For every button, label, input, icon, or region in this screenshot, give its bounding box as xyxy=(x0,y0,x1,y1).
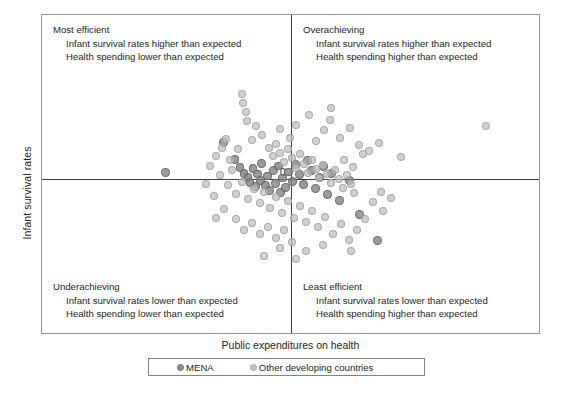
y-axis-label: Infant survival rates xyxy=(19,78,35,308)
scatter-point-other xyxy=(202,180,210,188)
scatter-point-other xyxy=(329,230,337,238)
legend-item-other-developing-countries[interactable]: Other developing countries xyxy=(250,362,374,373)
scatter-point-other xyxy=(319,241,327,249)
quadrant-title: Underachieving xyxy=(53,280,238,294)
scatter-point-other xyxy=(347,247,355,255)
quadrant-annotation-overachieving: Overachieving Infant survival rates high… xyxy=(303,23,491,64)
scatter-point-other xyxy=(379,207,387,215)
quadrant-annotation-most-efficient: Most efficient Infant survival rates hig… xyxy=(53,23,241,64)
scatter-point-other xyxy=(260,252,268,260)
quadrant-line-2: Health spending higher than expected xyxy=(316,307,488,321)
scatter-point-other xyxy=(212,214,220,222)
scatter-point-mena xyxy=(373,236,382,245)
scatter-point-other xyxy=(256,230,264,238)
scatter-chart-figure: Infant survival rates 0 Most efficient I… xyxy=(0,0,570,393)
scatter-point-other xyxy=(238,178,246,186)
quadrant-line-2: Health spending higher than expected xyxy=(316,50,491,64)
scatter-point-other xyxy=(248,136,256,144)
scatter-point-other xyxy=(260,188,268,196)
scatter-point-other xyxy=(238,90,246,98)
scatter-point-other xyxy=(369,198,377,206)
quadrant-line-1: Infant survival rates lower than expecte… xyxy=(316,294,488,308)
scatter-point-other xyxy=(387,194,395,202)
chart-legend: MENA Other developing countries xyxy=(148,358,425,376)
scatter-point-other xyxy=(234,145,242,153)
scatter-point-other xyxy=(305,111,313,119)
scatter-point-other xyxy=(355,141,363,149)
scatter-point-other xyxy=(224,181,232,189)
x-axis-label: Public expenditures on health xyxy=(41,339,540,351)
scatter-point-other xyxy=(252,122,260,130)
scatter-point-other xyxy=(335,175,343,183)
legend-label-mena: MENA xyxy=(186,362,214,373)
scatter-point-other xyxy=(240,226,248,234)
quadrant-line-1: Infant survival rates higher than expect… xyxy=(316,37,491,51)
scatter-point-other xyxy=(244,195,252,203)
scatter-point-other xyxy=(218,144,226,152)
scatter-point-other xyxy=(361,215,369,223)
scatter-point-other xyxy=(346,124,354,132)
scatter-point-other xyxy=(272,193,280,201)
scatter-point-other xyxy=(347,180,355,188)
scatter-point-other xyxy=(248,219,256,227)
scatter-point-other xyxy=(327,104,335,112)
scatter-point-other xyxy=(258,131,266,139)
quadrant-line-1: Infant survival rates higher than expect… xyxy=(66,37,241,51)
quadrant-annotation-least-efficient: Least efficient Infant survival rates lo… xyxy=(303,280,488,321)
scatter-point-other xyxy=(226,156,234,164)
quadrant-line-1: Infant survival rates lower than expecte… xyxy=(66,294,238,308)
scatter-point-other xyxy=(337,220,345,228)
scatter-point-mena xyxy=(311,184,320,193)
scatter-point-other xyxy=(272,140,280,148)
scatter-point-other xyxy=(228,166,236,174)
scatter-point-other xyxy=(210,192,218,200)
scatter-point-other xyxy=(242,108,250,116)
scatter-point-other xyxy=(397,153,405,161)
scatter-point-other xyxy=(304,169,312,177)
scatter-point-other xyxy=(321,213,329,221)
scatter-point-other xyxy=(288,238,296,246)
scatter-point-other xyxy=(276,125,284,133)
plot-area: 0 Most efficient Infant survival rates h… xyxy=(41,14,540,334)
scatter-point-other xyxy=(278,209,286,217)
scatter-point-other xyxy=(331,166,339,174)
quadrant-title: Overachieving xyxy=(303,23,491,37)
scatter-point-other xyxy=(220,205,228,213)
scatter-point-other xyxy=(232,190,240,198)
scatter-point-other xyxy=(239,99,247,107)
scatter-point-other xyxy=(206,162,214,170)
scatter-point-other xyxy=(336,134,344,142)
scatter-point-other xyxy=(292,121,300,129)
quadrant-line-2: Health spending lower than expected xyxy=(66,307,238,321)
scatter-point-other xyxy=(340,156,348,164)
scatter-point-other xyxy=(375,139,383,147)
quadrant-title: Least efficient xyxy=(303,280,488,294)
scatter-point-other xyxy=(266,204,274,212)
scatter-point-mena xyxy=(335,196,344,205)
scatter-point-other xyxy=(296,150,304,158)
scatter-point-other xyxy=(320,126,328,134)
scatter-point-mena xyxy=(257,159,266,168)
scatter-point-other xyxy=(243,117,251,125)
scatter-point-other xyxy=(326,116,334,124)
scatter-point-other xyxy=(280,226,288,234)
quadrant-title: Most efficient xyxy=(53,23,241,37)
scatter-point-other xyxy=(222,135,230,143)
legend-label-other: Other developing countries xyxy=(259,362,374,373)
scatter-point-other xyxy=(327,179,335,187)
scatter-point-other xyxy=(482,122,490,130)
scatter-point-other xyxy=(345,236,353,244)
scatter-point-other xyxy=(212,152,220,160)
scatter-point-other xyxy=(308,156,316,164)
scatter-point-other xyxy=(276,149,284,157)
scatter-point-other xyxy=(312,137,320,145)
scatter-point-other xyxy=(353,226,361,234)
quadrant-annotation-underachieving: Underachieving Infant survival rates low… xyxy=(53,280,238,321)
scatter-point-other xyxy=(349,163,357,171)
scatter-point-other xyxy=(339,184,347,192)
scatter-point-other xyxy=(290,214,298,222)
scatter-point-other xyxy=(350,189,358,197)
scatter-point-other xyxy=(377,188,385,196)
scatter-point-other xyxy=(359,150,367,158)
legend-item-mena[interactable]: MENA xyxy=(177,362,214,373)
